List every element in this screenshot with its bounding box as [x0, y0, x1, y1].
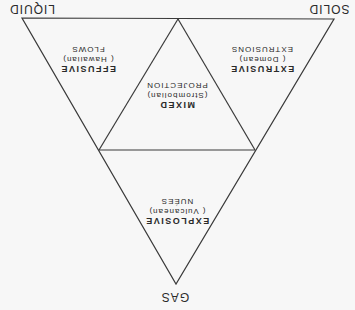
- vertex-label-liquid: LIQUID: [0, 2, 67, 16]
- region-explosive-detail: NUÉES: [127, 196, 227, 206]
- region-mixed: MIXED (Strombolian) PROJECTION: [127, 80, 227, 110]
- region-effusive-title: EFFUSIVE: [38, 64, 138, 74]
- region-effusive-subtitle: ( Hawaiian): [38, 54, 138, 64]
- region-extrusive-subtitle: ( Domean): [212, 54, 312, 64]
- region-extrusive-title: EXTRUSIVE: [212, 64, 312, 74]
- region-explosive-title: EXPLOSIVE: [127, 216, 227, 226]
- region-mixed-detail: PROJECTION: [127, 80, 227, 90]
- region-extrusive: EXTRUSIVE ( Domean) EXTRUSIONS: [212, 44, 312, 74]
- region-extrusive-detail: EXTRUSIONS: [212, 44, 312, 54]
- vertex-label-gas: GAS: [155, 290, 195, 304]
- region-effusive: EFFUSIVE ( Hawaiian) FLOWS: [38, 44, 138, 74]
- region-explosive-subtitle: ( Vulcanean): [127, 206, 227, 216]
- region-mixed-subtitle: (Strombolian): [127, 90, 227, 100]
- region-mixed-title: MIXED: [127, 100, 227, 110]
- volcanic-eruption-triangle-diagram: GAS LIQUID SOLID EXPLOSIVE ( Vulcanean) …: [0, 0, 355, 310]
- vertex-label-solid: SOLID: [299, 2, 355, 16]
- region-effusive-detail: FLOWS: [38, 44, 138, 54]
- region-explosive: EXPLOSIVE ( Vulcanean) NUÉES: [127, 196, 227, 226]
